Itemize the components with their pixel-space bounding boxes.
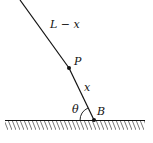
rod-upper-segment xyxy=(20,0,69,68)
ground-hatching xyxy=(5,121,145,130)
angle-arc xyxy=(80,108,88,121)
point-b-dot xyxy=(92,118,96,122)
label-point-p: P xyxy=(73,55,82,68)
label-point-b: B xyxy=(96,105,105,118)
label-lower-segment: x xyxy=(84,81,91,94)
label-upper-segment: L − x xyxy=(49,18,81,31)
label-angle-theta: θ xyxy=(72,103,79,116)
rod-diagram: L − x P x θ B xyxy=(0,0,153,143)
point-p-dot xyxy=(67,66,71,70)
